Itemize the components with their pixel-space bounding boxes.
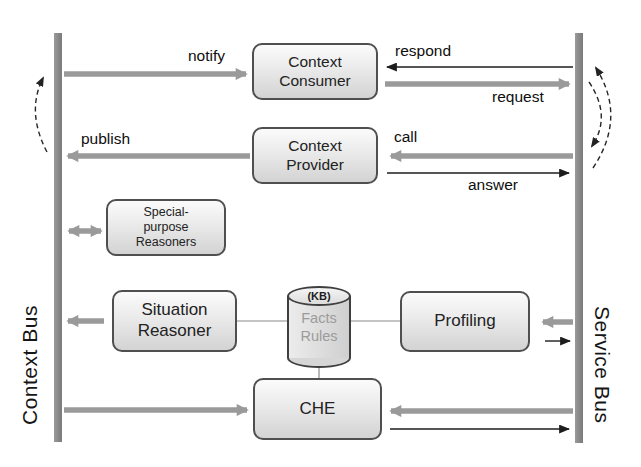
situation-reasoner-node: Situation Reasoner [112,290,237,352]
knowledge-base-cylinder: (KB) Facts Rules [287,286,351,368]
service-bus-cycle-down-arc [589,82,601,146]
service-bus-bar [575,33,583,443]
publish-label: publish [81,130,130,148]
kb-cylinder-top: (KB) [287,286,351,306]
context-bus-cycle-arc [35,78,47,152]
kb-title: (KB) [307,290,330,302]
context-bus-label: Context Bus [18,283,42,447]
service-bus-label: Service Bus [590,284,614,446]
context-bus-bar [54,33,62,442]
context-provider-node: Context Provider [252,127,378,184]
profiling-node: Profiling [400,291,530,352]
che-node: CHE [253,378,382,440]
architecture-diagram: Context Bus Service Bus Context Consumer… [0,0,641,467]
context-consumer-node: Context Consumer [252,43,378,100]
request-label: request [492,88,544,106]
notify-label: notify [188,47,225,65]
kb-content-text: Facts Rules [287,309,351,345]
special-purpose-reasoners-node: Special- purpose Reasoners [106,199,226,256]
call-label: call [394,128,417,146]
respond-label: respond [395,42,451,60]
answer-label: answer [468,176,518,194]
